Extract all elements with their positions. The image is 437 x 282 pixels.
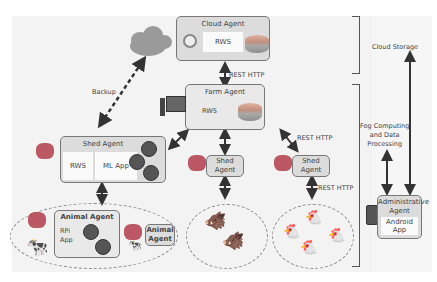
camera-sensor-icon [129,154,145,170]
admin-agent-title: Administrative Agent [378,198,421,216]
accel-sensor-icon [95,239,111,255]
farm-rws: RWS [202,107,217,115]
pig-icon: 🐗 [204,212,226,230]
fog-computing-label: Fog Computing and Data Processing [360,122,409,149]
rest-http-label: REST HTTP [297,134,332,142]
chicken-icon: 🐔 [300,240,317,254]
chicken-icon: 🐔 [283,224,300,238]
shed-agent-2-title: Shed Agent [207,157,243,175]
farm-agent-title: Farm Agent [186,88,264,96]
animal-agent-main-box: Animal Agent RPi App [54,210,120,258]
cloud-storage-label: Cloud Storage [372,43,418,51]
farm-agent-box: Farm Agent RWS [185,84,265,130]
database-icon [238,103,262,121]
cow-icon: 🐄 [26,238,48,256]
cloud-rws: RWS [203,32,243,52]
computer-icon [166,96,186,112]
cloud-agent-box: Cloud Agent RWS [176,16,270,61]
database-icon [245,35,269,53]
rpi-app: RPi App [60,227,73,245]
rest-http-label: REST HTTP [229,71,264,79]
raspberry-pi-icon [124,224,142,240]
chicken-icon: 🐔 [328,228,345,242]
computer-base [160,98,165,116]
cloud-bracket [352,16,360,74]
shed-agent-2-box: Shed Agent [206,155,244,177]
raspberry-pi-icon [188,155,206,171]
humidity-sensor-icon [141,141,157,157]
animal-agent-2-title: Animal Agent [146,226,174,244]
animal-agent-title: Animal Agent [55,213,119,221]
shed-agent-main-box: Shed Agent RWS ML App [60,136,166,183]
gps-sensor-icon [83,224,99,240]
rest-http-label: REST HTTP [318,184,353,192]
animal-agent-2-box: Animal Agent [145,224,175,246]
raspberry-pi-icon [28,212,46,228]
shed-agent-3-box: Shed Agent [292,155,330,177]
admin-agent-box: Administrative Agent Android App [377,195,422,239]
cow-icon: 🐄 [128,240,142,251]
pig-icon: 🐗 [222,232,244,250]
android-app: Android App [381,217,418,235]
shed-agent-3-title: Shed Agent [293,157,329,175]
cloud-agent-title: Cloud Agent [177,20,269,28]
chicken-icon: 🐔 [305,210,322,224]
backup-label: Backup [92,88,116,96]
globe-icon [183,34,197,48]
shed-rws: RWS [63,152,93,180]
raspberry-pi-icon [274,155,292,171]
shed-agent-title: Shed Agent [61,140,145,148]
temp-sensor-icon [143,165,159,181]
raspberry-pi-icon [36,143,54,159]
